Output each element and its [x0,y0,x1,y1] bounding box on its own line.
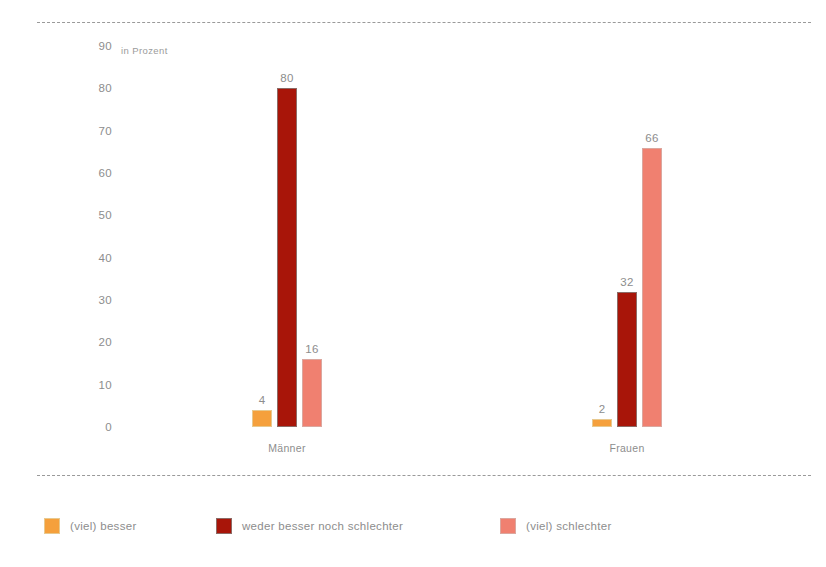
legend-swatch-icon [500,518,516,534]
bar-group-maenner: 48016Männer [252,46,322,427]
y-axis-tick-0: 0 [78,421,112,433]
bar-value-label: 16 [286,343,338,355]
legend-item-0[interactable]: (viel) besser [44,518,137,534]
y-axis-tick-30: 30 [78,294,112,306]
y-axis-tick-90: 90 [78,40,112,52]
legend-swatch-icon [44,518,60,534]
legend-label: weder besser noch schlechter [242,518,403,534]
y-axis-tick-10: 10 [78,379,112,391]
bar-rect[interactable] [252,410,272,427]
legend-label: (viel) schlechter [526,518,612,534]
chart-container: in Prozent 9080706050403020100 48016Männ… [0,0,826,567]
y-axis-tick-70: 70 [78,125,112,137]
y-axis-tick-20: 20 [78,336,112,348]
y-axis-tick-40: 40 [78,252,112,264]
y-axis: 9080706050403020100 [78,40,112,433]
bar-value-label: 66 [626,132,678,144]
legend-item-1[interactable]: weder besser noch schlechter [216,518,403,534]
top-divider-rule [37,22,811,23]
y-axis-tick-60: 60 [78,167,112,179]
y-axis-tick-50: 50 [78,209,112,221]
legend-label: (viel) besser [70,518,137,534]
bar-rect[interactable] [592,419,612,427]
x-axis-label-frauen: Frauen [572,442,682,454]
bar-rect[interactable] [302,359,322,427]
bar-group-frauen: 23266Frauen [592,46,662,427]
bottom-divider-rule [37,475,811,476]
bar-value-label: 80 [261,72,313,84]
bar-rect[interactable] [617,292,637,427]
bar-rect[interactable] [277,88,297,427]
bar-rect[interactable] [642,148,662,427]
plot-area: 48016Männer 23266Frauen [118,46,758,427]
legend-item-2[interactable]: (viel) schlechter [500,518,612,534]
y-axis-tick-80: 80 [78,82,112,94]
legend-swatch-icon [216,518,232,534]
x-axis-label-männer: Männer [232,442,342,454]
